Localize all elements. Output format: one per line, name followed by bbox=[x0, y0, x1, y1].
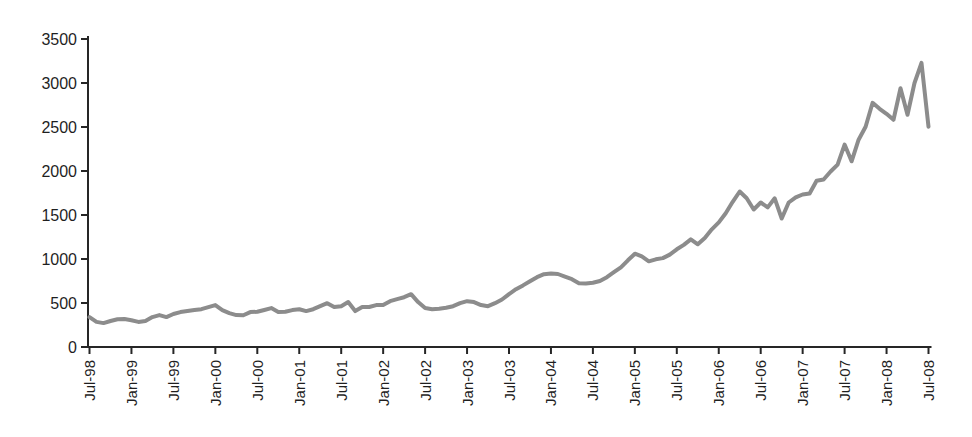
x-tick-label: Jul-03 bbox=[501, 360, 518, 401]
x-tick-label: Jul-04 bbox=[584, 360, 601, 401]
x-tick-label: Jul-00 bbox=[249, 360, 266, 401]
y-tick-label: 1000 bbox=[41, 251, 77, 268]
y-tick-label: 3000 bbox=[41, 75, 77, 92]
y-tick-label: 500 bbox=[50, 295, 77, 312]
y-tick-label: 0 bbox=[68, 339, 77, 356]
x-tick-label: Jul-08 bbox=[920, 360, 937, 401]
data-series-line bbox=[90, 63, 929, 323]
x-tick-label: Jul-02 bbox=[417, 360, 434, 401]
y-tick-label: 2000 bbox=[41, 163, 77, 180]
x-tick-label: Jul-07 bbox=[836, 360, 853, 401]
x-tick-label: Jan-00 bbox=[207, 360, 224, 406]
x-tick-label: Jul-01 bbox=[333, 360, 350, 401]
x-tick-label: Jan-03 bbox=[459, 360, 476, 406]
x-tick-label: Jul-99 bbox=[165, 360, 182, 401]
x-tick-label: Jan-01 bbox=[291, 360, 308, 406]
x-tick-label: Jan-04 bbox=[542, 360, 559, 406]
line-chart: 0500100015002000250030003500Jul-98Jan-99… bbox=[0, 0, 972, 437]
y-tick-label: 1500 bbox=[41, 207, 77, 224]
chart-figure: 0500100015002000250030003500Jul-98Jan-99… bbox=[0, 0, 972, 437]
x-tick-label: Jul-98 bbox=[81, 360, 98, 401]
y-tick-label: 3500 bbox=[41, 31, 77, 48]
x-tick-label: Jan-07 bbox=[794, 360, 811, 406]
x-tick-label: Jan-02 bbox=[375, 360, 392, 406]
x-tick-label: Jul-06 bbox=[752, 360, 769, 401]
x-tick-label: Jul-05 bbox=[668, 360, 685, 401]
x-tick-label: Jan-05 bbox=[626, 360, 643, 406]
x-tick-label: Jan-08 bbox=[878, 360, 895, 406]
x-tick-label: Jan-99 bbox=[123, 360, 140, 406]
x-tick-label: Jan-06 bbox=[710, 360, 727, 406]
y-tick-label: 2500 bbox=[41, 119, 77, 136]
